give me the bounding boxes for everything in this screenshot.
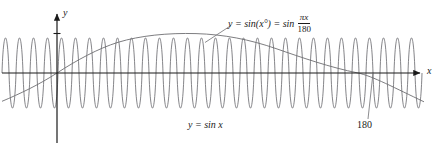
slow-sine-equation-text: y = sin(x°) = sin (228, 19, 294, 29)
y-axis-label: y (63, 8, 67, 18)
x-axis-label: x (427, 66, 431, 76)
fraction-denominator: 180 (297, 24, 311, 34)
slow-sine-equation-label: y = sin(x°) = sin πx 180 (228, 13, 311, 35)
curve-slow-sine (2, 33, 424, 101)
leader-line-180 (368, 73, 373, 119)
x-tick-180-label: 180 (357, 120, 372, 130)
fast-sine-equation-label: y = sin x (188, 120, 223, 130)
sine-comparison-figure: y x y = sin(x°) = sin πx 180 y = sin x 1… (0, 0, 438, 152)
fraction-numerator: πx (298, 13, 311, 24)
slow-sine-fraction: πx 180 (297, 13, 311, 35)
